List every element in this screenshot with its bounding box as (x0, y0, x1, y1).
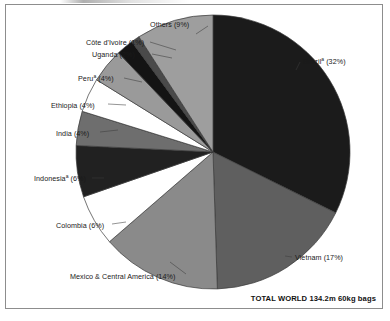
slice-label-brazil: Brazila (32%) (303, 57, 346, 66)
slice-label-uganda: Uganda (2%) (92, 50, 135, 59)
slice-label-ethiopia: Ethiopia (4%) (51, 101, 95, 110)
slice-label-others: Others (9%) (150, 20, 189, 29)
slice-label-colombia: Colombia (6%) (56, 221, 104, 230)
figure-root: Others (9%) Côte d'Ivoire (1%) Uganda (2… (0, 0, 390, 321)
slice-label-peru: Perua (4%) (78, 74, 114, 83)
slice-label-india: India (4%) (56, 129, 89, 138)
slice-label-indonesia: Indonesiaa (6%) (34, 174, 86, 183)
slice-label-cote-divoire: Côte d'Ivoire (1%) (86, 38, 144, 47)
total-world-note: TOTAL WORLD 134.2m 60kg bags (251, 294, 376, 303)
slice-label-mexico-central-america: Mexico & Central America (14%) (70, 272, 175, 281)
pie-svg (0, 0, 390, 321)
slice-label-vietnam: Vietnam (17%) (295, 253, 343, 262)
pie-chart (0, 0, 390, 321)
